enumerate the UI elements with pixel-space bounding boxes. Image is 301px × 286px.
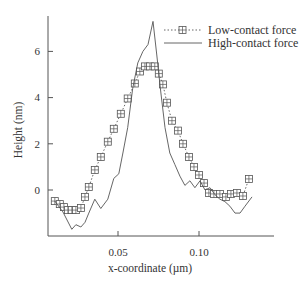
x-ticks: 0.05 0.10 (108, 231, 209, 258)
square-cross-marker-icon (174, 127, 181, 134)
square-cross-marker-icon (190, 163, 197, 170)
y-tick-label: 6 (35, 45, 41, 57)
legend-label: High-contact force (208, 36, 298, 50)
legend-label: Low-contact force (208, 23, 296, 37)
square-cross-marker-icon (91, 166, 98, 173)
x-axis-title: x-coordinate (µm) (108, 262, 192, 275)
square-cross-marker-icon (85, 183, 92, 190)
plot-area (51, 21, 252, 229)
square-cross-marker-icon (104, 138, 111, 145)
y-ticks: 6 4 2 0 (35, 45, 54, 196)
low-contact-force-line (55, 66, 249, 210)
square-cross-marker-icon (124, 95, 131, 102)
x-tick-label: 0.10 (189, 246, 209, 258)
square-cross-marker-icon (239, 193, 246, 200)
y-axis-title: Height (nm) (12, 102, 25, 159)
square-cross-marker-icon (196, 171, 203, 178)
square-cross-marker-icon (151, 63, 158, 70)
square-cross-marker-icon (117, 110, 124, 117)
square-cross-marker-icon (131, 80, 138, 87)
square-cross-marker-icon (81, 193, 88, 200)
y-tick-label: 2 (35, 138, 41, 150)
legend-item-high-contact: High-contact force (164, 36, 298, 50)
square-cross-marker-icon (163, 99, 170, 106)
square-cross-marker-icon (179, 27, 186, 34)
square-cross-marker-icon (168, 117, 175, 124)
line-chart: 6 4 2 0 0.05 0.10 x-coordinate (µm) Heig… (0, 0, 301, 286)
square-cross-marker-icon (97, 153, 104, 160)
square-cross-marker-icon (179, 140, 186, 147)
y-tick-label: 4 (35, 91, 41, 103)
square-cross-marker-icon (77, 205, 84, 212)
legend: Low-contact force High-contact force (164, 23, 298, 50)
y-tick-label: 0 (35, 184, 41, 196)
legend-item-low-contact: Low-contact force (164, 23, 296, 37)
square-cross-marker-icon (245, 175, 252, 182)
square-cross-marker-icon (110, 125, 117, 132)
square-cross-marker-icon (185, 153, 192, 160)
x-tick-label: 0.05 (108, 246, 128, 258)
